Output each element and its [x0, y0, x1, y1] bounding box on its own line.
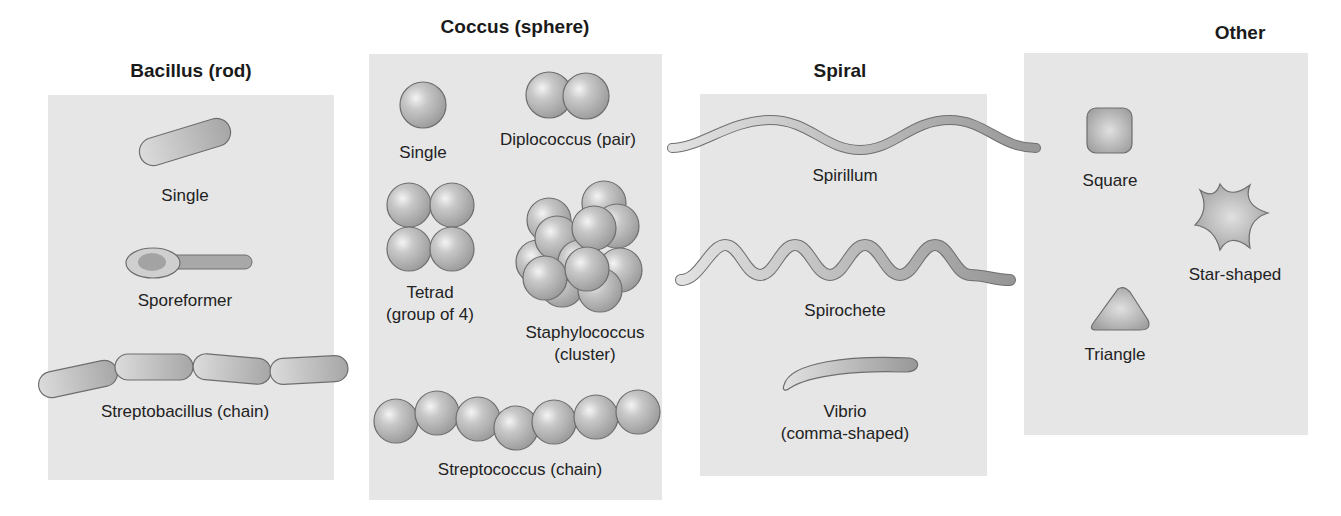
streptobacillus-label: Streptobacillus (chain): [85, 402, 285, 422]
streptococcus-label: Streptococcus (chain): [420, 460, 620, 480]
spirochete-label: Spirochete: [795, 301, 895, 321]
streptococcus-chain: [374, 390, 660, 450]
staphylococcus-label-line1: Staphylococcus: [510, 323, 660, 343]
vibrio-cell: [783, 357, 917, 390]
coccus-single-cell: [400, 82, 446, 128]
sporeformer-label: Sporeformer: [115, 291, 255, 311]
triangle-cell: [1091, 288, 1149, 330]
streptobacillus-chain: [36, 353, 348, 400]
square-label: Square: [1070, 171, 1150, 191]
diplococcus-pair: [526, 72, 609, 119]
bacteria-shapes-illustration: [0, 0, 1341, 516]
bacillus-single-label: Single: [135, 186, 235, 206]
staphylococcus-label-line2: (cluster): [535, 345, 635, 365]
tetrad-label-line1: Tetrad: [380, 283, 480, 303]
bacillus-single-cell: [136, 115, 234, 169]
star-shaped-label: Star-shaped: [1180, 265, 1290, 285]
star-shaped-cell: [1195, 184, 1268, 250]
spirochete-cell: [681, 245, 1010, 280]
spirillum-cell: [672, 120, 1036, 150]
tetrad-label-line2: (group of 4): [375, 305, 485, 325]
triangle-label: Triangle: [1075, 345, 1155, 365]
sporeformer-cell: [126, 248, 252, 278]
vibrio-label-line1: Vibrio: [810, 402, 880, 422]
square-cell: [1087, 108, 1132, 153]
spirillum-label: Spirillum: [800, 166, 890, 186]
coccus-single-label: Single: [388, 143, 458, 163]
vibrio-label-line2: (comma-shaped): [775, 424, 915, 444]
staphylococcus-cluster: [516, 181, 642, 312]
diplococcus-label: Diplococcus (pair): [483, 130, 653, 150]
tetrad-group: [387, 183, 474, 271]
